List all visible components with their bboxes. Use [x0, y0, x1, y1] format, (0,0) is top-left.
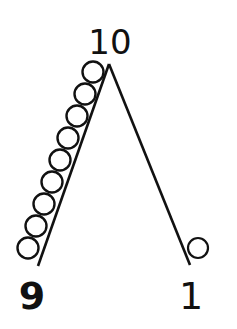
ball-icon: [50, 150, 71, 171]
right-side-line: [109, 64, 190, 265]
left-balls: [18, 62, 104, 259]
ball-icon: [75, 84, 96, 105]
ball-icon: [58, 128, 79, 149]
left-label: 9: [19, 274, 45, 318]
ball-icon: [26, 216, 47, 237]
ball-icon: [42, 172, 63, 193]
right-balls: [188, 238, 208, 258]
ball-icon: [67, 106, 88, 127]
ratio-triangle-diagram: 10 9 1: [0, 0, 237, 329]
ball-icon: [83, 62, 104, 83]
right-label: 1: [179, 274, 203, 318]
ball-icon: [188, 238, 208, 258]
ball-icon: [18, 238, 39, 259]
top-label: 10: [88, 22, 131, 62]
ball-icon: [34, 194, 55, 215]
